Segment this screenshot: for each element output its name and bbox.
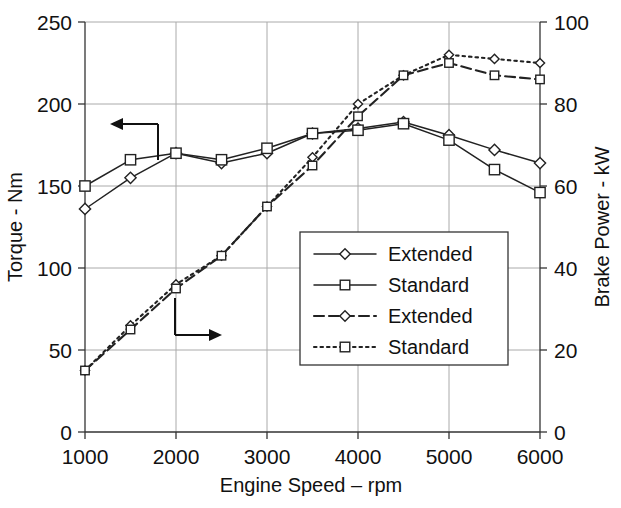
data-point-square [445,59,453,67]
data-point-square [399,71,407,79]
data-point-square [263,202,271,210]
y2-tick-label: 60 [554,175,577,198]
data-point-square [217,251,225,259]
x-axis-title: Engine Speed – rpm [220,474,402,496]
x-tick-label: 1000 [62,445,109,468]
x-tick-label: 4000 [335,445,382,468]
legend: ExtendedStandardExtendedStandard [300,232,508,365]
legend-marker-square [340,342,350,352]
legend-label: Standard [388,274,469,296]
chart-canvas: 100020003000400050006000 050100150200250… [0,0,621,508]
y2-axis-title: Brake Power - kW [591,146,613,307]
data-point-square [125,155,135,165]
x-tick-label: 2000 [153,445,200,468]
y-tick-label: 250 [37,11,72,34]
y2-tick-label: 40 [554,257,577,280]
x-tick-label: 3000 [244,445,291,468]
data-point-square [398,119,408,129]
legend-label: Standard [388,336,469,358]
data-point-square [80,181,90,191]
data-point-square [490,71,498,79]
y2-tick-label: 80 [554,93,577,116]
x-tick-label: 5000 [426,445,473,468]
legend-label: Extended [388,305,473,327]
y2-tick-label: 100 [554,11,589,34]
data-point-square [307,128,317,138]
y-axis-title: Torque - Nm [4,172,26,282]
y-tick-label: 200 [37,93,72,116]
data-point-square [126,325,134,333]
y-tick-label: 100 [37,257,72,280]
data-point-square [262,143,272,153]
data-point-square [536,75,544,83]
data-point-square [171,148,181,158]
x-tick-label: 6000 [517,445,564,468]
data-point-square [216,155,226,165]
data-point-square [172,284,180,292]
y2-tick-label: 0 [554,421,566,444]
data-point-square [353,125,363,135]
legend-marker-square [340,280,350,290]
data-point-square [535,187,545,197]
y-tick-label: 50 [49,339,72,362]
data-point-square [81,366,89,374]
data-point-square [354,112,362,120]
y2-tick-label: 20 [554,339,577,362]
y-tick-label: 150 [37,175,72,198]
data-point-square [308,161,316,169]
legend-label: Extended [388,243,473,265]
torque-power-chart: 100020003000400050006000 050100150200250… [0,0,621,508]
data-point-square [489,164,499,174]
data-point-square [444,135,454,145]
y-tick-label: 0 [60,421,72,444]
